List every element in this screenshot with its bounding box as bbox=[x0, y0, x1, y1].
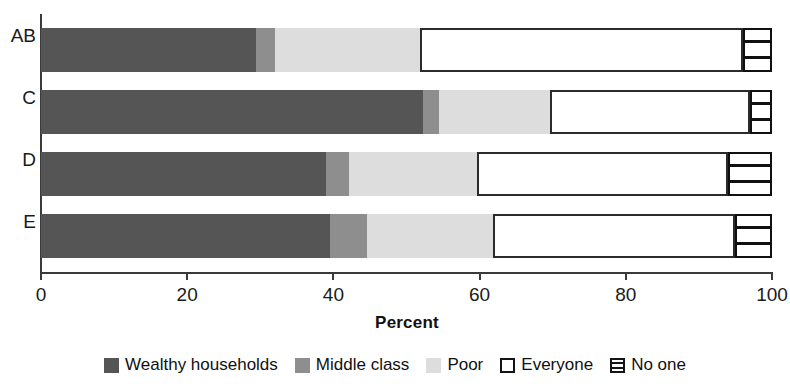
x-axis-line bbox=[41, 272, 773, 274]
legend-item-wealthy-households: Wealthy households bbox=[104, 355, 278, 375]
legend-label: Wealthy households bbox=[125, 355, 278, 375]
legend-swatch-icon bbox=[426, 358, 441, 373]
hatch-line bbox=[752, 102, 770, 105]
y-axis-label: AB bbox=[0, 14, 36, 58]
bar-segment-wealthy-households bbox=[41, 28, 256, 72]
legend-swatch-icon bbox=[610, 358, 625, 373]
x-axis-tick-label: 40 bbox=[298, 284, 368, 306]
legend-item-everyone: Everyone bbox=[500, 355, 593, 375]
hatch-line bbox=[745, 40, 770, 43]
hatch-line bbox=[612, 367, 623, 369]
x-axis-tick bbox=[771, 272, 773, 280]
legend-item-no-one: No one bbox=[610, 355, 686, 375]
legend-item-poor: Poor bbox=[426, 355, 483, 375]
y-axis-labels: AB C D E bbox=[0, 0, 36, 387]
bar-segment-wealthy-households bbox=[41, 152, 326, 196]
legend-swatch-icon bbox=[500, 358, 515, 373]
y-axis-label: E bbox=[0, 200, 36, 244]
x-axis-tick-label: 20 bbox=[152, 284, 222, 306]
x-axis-tick-label: 60 bbox=[445, 284, 515, 306]
bar-segment-everyone bbox=[477, 152, 728, 196]
hatch-line bbox=[612, 362, 623, 364]
x-axis-tick bbox=[625, 272, 627, 280]
bar-segment-everyone bbox=[550, 90, 750, 134]
x-axis-tick-label: 80 bbox=[591, 284, 661, 306]
x-axis-title: Percent bbox=[41, 313, 773, 333]
hatch-line bbox=[737, 242, 770, 245]
bar-segment-no-one bbox=[728, 152, 772, 196]
bar-segment-middle-class bbox=[330, 214, 367, 258]
bar-segment-everyone bbox=[493, 214, 735, 258]
legend-label: No one bbox=[631, 355, 686, 375]
bar-segment-poor bbox=[367, 214, 493, 258]
hatch-line bbox=[730, 180, 770, 183]
legend-label: Middle class bbox=[316, 355, 410, 375]
bar-segment-wealthy-households bbox=[41, 214, 330, 258]
hatch-line bbox=[730, 164, 770, 167]
bar-segment-wealthy-households bbox=[41, 90, 423, 134]
bar-segment-everyone bbox=[420, 28, 743, 72]
bar-segment-poor bbox=[349, 152, 477, 196]
bar-segment-poor bbox=[439, 90, 550, 134]
bar-segment-no-one bbox=[750, 90, 772, 134]
legend-label: Everyone bbox=[521, 355, 593, 375]
plot-area bbox=[41, 14, 772, 272]
chart-legend: Wealthy households Middle class Poor Eve… bbox=[0, 355, 790, 375]
stacked-bar-chart: AB C D E bbox=[0, 0, 790, 387]
bar-segment-poor bbox=[275, 28, 420, 72]
legend-swatch-icon bbox=[104, 358, 119, 373]
y-axis-label: D bbox=[0, 138, 36, 182]
x-axis-tick-label: 0 bbox=[6, 284, 76, 306]
bar-segment-no-one bbox=[735, 214, 772, 258]
legend-item-middle-class: Middle class bbox=[295, 355, 410, 375]
bar-segment-middle-class bbox=[256, 28, 275, 72]
x-axis-tick bbox=[186, 272, 188, 280]
bar-segment-no-one bbox=[743, 28, 772, 72]
hatch-line bbox=[737, 226, 770, 229]
x-axis-tick bbox=[332, 272, 334, 280]
x-axis-tick bbox=[479, 272, 481, 280]
legend-label: Poor bbox=[447, 355, 483, 375]
hatch-line bbox=[752, 118, 770, 121]
bar-segment-middle-class bbox=[326, 152, 349, 196]
y-axis-label: C bbox=[0, 76, 36, 120]
x-axis-tick-label: 100 bbox=[737, 284, 790, 306]
bar-segment-middle-class bbox=[423, 90, 438, 134]
hatch-line bbox=[745, 56, 770, 59]
legend-swatch-icon bbox=[295, 358, 310, 373]
x-axis-tick bbox=[40, 272, 42, 280]
